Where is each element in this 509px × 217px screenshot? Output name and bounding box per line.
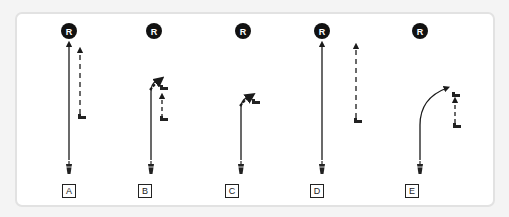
player-icon [453, 123, 461, 128]
reference-marker-r: R [146, 23, 162, 39]
reference-marker-r: R [314, 23, 330, 39]
solid-path [151, 81, 156, 160]
svg-text:R: R [417, 27, 424, 37]
scenario-a: R [61, 23, 86, 174]
scenario-label-e: E [405, 184, 419, 198]
scenario-e: R [412, 23, 461, 174]
player-icon [160, 116, 168, 121]
svg-text:R: R [319, 27, 326, 37]
scenario-label-c: C [225, 184, 239, 198]
solid-path [420, 88, 447, 160]
reference-marker-r: R [61, 23, 77, 39]
scenario-label-a: A [62, 184, 76, 198]
player-icon [66, 161, 72, 174]
player-icon [319, 161, 325, 174]
curved-arrow [240, 96, 251, 106]
player-icon [354, 118, 362, 123]
solid-path [241, 98, 246, 160]
scenario-label-d: D [310, 184, 324, 198]
player-icon [417, 161, 423, 174]
player-icon [452, 92, 460, 97]
svg-text:R: R [151, 27, 158, 37]
diagram-stage: R R [0, 0, 509, 217]
reference-marker-r: R [412, 23, 428, 39]
scenario-c: R [235, 23, 260, 174]
svg-text:R: R [240, 27, 247, 37]
player-icon [160, 85, 168, 90]
player-icon [148, 161, 154, 174]
player-icon [252, 99, 260, 104]
player-icon [238, 161, 244, 174]
reference-marker-r: R [235, 23, 251, 39]
player-icon [78, 114, 86, 119]
scenario-label-b: B [138, 184, 152, 198]
scenario-d: R [314, 23, 362, 174]
svg-text:R: R [66, 27, 73, 37]
diagram-canvas: R R [0, 0, 509, 217]
scenario-b: R [146, 23, 168, 174]
